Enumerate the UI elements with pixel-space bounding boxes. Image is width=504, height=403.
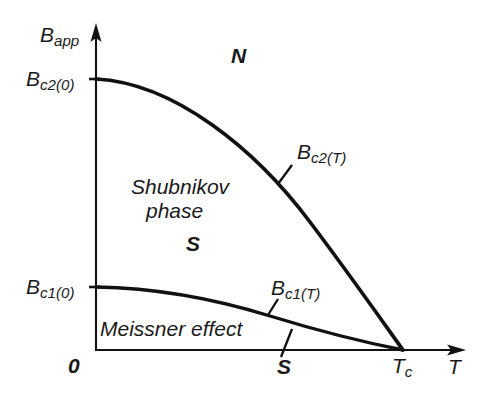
tick-label-tc-sub: c bbox=[405, 363, 413, 380]
curve-label-bc1-sub: c1(T) bbox=[285, 285, 320, 302]
y-axis-label: Bapp bbox=[40, 24, 79, 48]
tick-label-bc2-0-main: B bbox=[26, 67, 40, 90]
x-axis-group bbox=[95, 345, 466, 356]
tick-label-tc: Tc bbox=[392, 355, 412, 379]
curve-label-bc1: Bc1(T) bbox=[271, 277, 320, 301]
x-axis-label-main: T bbox=[448, 355, 461, 378]
region-label-shubnikov-line2: phase bbox=[146, 200, 203, 221]
tick-label-tc-main: T bbox=[392, 354, 405, 377]
curve-label-bc1-main: B bbox=[271, 276, 285, 299]
tick-label-bc1-0-sub: c1(0) bbox=[40, 284, 74, 301]
curve-label-bc2-main: B bbox=[297, 140, 311, 163]
curve-label-bc2-sub: c2(T) bbox=[311, 149, 346, 166]
x-axis-label: T bbox=[448, 356, 461, 377]
phase-diagram-svg bbox=[0, 0, 504, 403]
origin-label: 0 bbox=[68, 355, 80, 376]
region-label-shubnikov-line1: Shubnikov bbox=[131, 176, 229, 197]
curve-label-bc2: Bc2(T) bbox=[297, 141, 346, 165]
region-label-meissner: Meissner effect bbox=[100, 318, 242, 339]
tick-label-s-axis: S bbox=[277, 356, 291, 377]
tick-s-axis bbox=[281, 329, 292, 357]
tick-label-bc1-0-main: B bbox=[26, 275, 40, 298]
region-label-normal: N bbox=[231, 45, 246, 66]
y-axis-label-sub: app bbox=[54, 32, 79, 49]
y-axis-label-main: B bbox=[40, 23, 54, 46]
y-axis-group bbox=[91, 23, 102, 350]
tick-label-bc2-0-sub: c2(0) bbox=[40, 76, 74, 93]
leader-tick-bc2 bbox=[278, 165, 292, 184]
region-label-shubnikov-symbol: S bbox=[186, 233, 200, 254]
figure-canvas: Bapp T Bc2(0) Bc1(0) 0 Tc S Bc2(T) Bc1(T… bbox=[0, 0, 504, 403]
leader-tick-bc1 bbox=[268, 299, 278, 315]
tick-label-bc1-0: Bc1(0) bbox=[26, 276, 74, 300]
tick-label-bc2-0: Bc2(0) bbox=[26, 68, 74, 92]
